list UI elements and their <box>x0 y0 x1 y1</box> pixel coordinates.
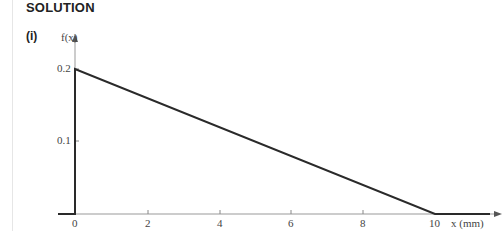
x-tick-label: 2 <box>145 217 151 229</box>
pdf-line <box>58 69 490 214</box>
x-tick-label: 10 <box>429 217 441 229</box>
x-tick-label: 8 <box>360 217 366 229</box>
x-tick-label: 6 <box>288 217 294 229</box>
pdf-chart: 0.2 0.1 f(x) 0 2 4 6 8 10 x (mm) <box>0 0 503 231</box>
y-tick-label: 0.1 <box>57 134 71 146</box>
y-axis-label: f(x) <box>61 31 78 44</box>
x-tick-label: 4 <box>217 217 223 229</box>
x-ticks <box>148 210 363 214</box>
x-tick-label: 0 <box>72 217 78 229</box>
x-axis-arrow-icon <box>494 211 502 217</box>
y-tick-label: 0.2 <box>57 62 71 74</box>
x-axis-label: x (mm) <box>451 217 484 230</box>
